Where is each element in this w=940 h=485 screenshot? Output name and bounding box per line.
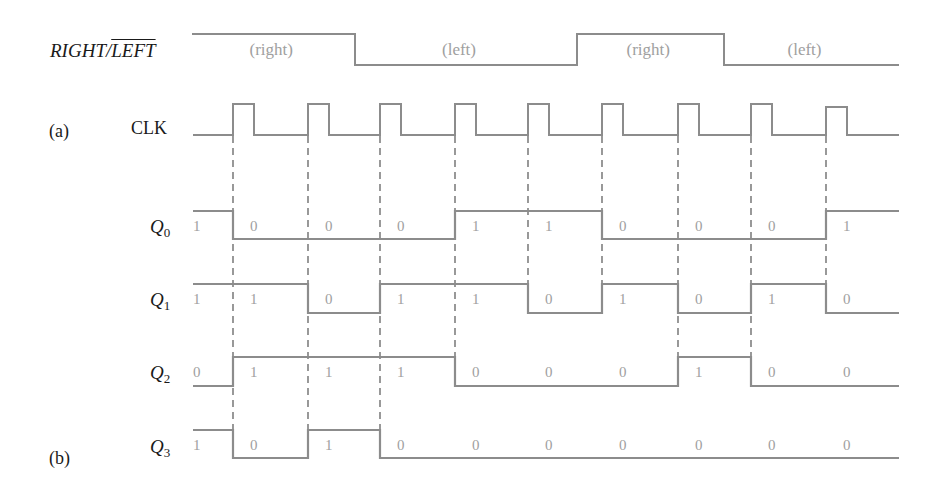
part-a-label: (a)	[49, 121, 69, 142]
q1-bit-value: 1	[193, 291, 201, 308]
q3-bit-value: 0	[397, 437, 405, 454]
right-label: RIGHT/	[50, 40, 111, 61]
q1-bit-value: 0	[325, 291, 333, 308]
q3-bit-value: 0	[619, 437, 627, 454]
q1-bit-value: 0	[843, 291, 851, 308]
q1-label: Q1	[150, 289, 170, 314]
q0-bit-value: 0	[695, 218, 703, 235]
q0-bit-value: 0	[325, 218, 333, 235]
direction-mode-label: (left)	[442, 40, 476, 60]
direction-mode-label: (right)	[627, 40, 670, 60]
q2-bit-value: 1	[397, 364, 405, 381]
q2-bit-value: 0	[472, 364, 480, 381]
q0-bit-value: 1	[472, 218, 480, 235]
q3-bit-value: 0	[250, 437, 258, 454]
q-prefix: Q	[150, 436, 164, 457]
clock-waveform	[193, 104, 899, 135]
q2-bit-value: 0	[619, 364, 627, 381]
q1-bit-value: 1	[768, 291, 776, 308]
timing-diagram	[0, 0, 940, 485]
q2-label: Q2	[150, 362, 170, 387]
q2-bit-value: 0	[768, 364, 776, 381]
waveforms	[192, 34, 899, 458]
q-prefix: Q	[150, 362, 164, 383]
clk-label: CLK	[131, 118, 167, 139]
q-prefix: Q	[150, 289, 164, 310]
q3-bit-value: 0	[545, 437, 553, 454]
q2-bit-value: 0	[545, 364, 553, 381]
q-subscript: 3	[164, 445, 171, 460]
q1-bit-value: 0	[545, 291, 553, 308]
q3-bit-value: 0	[472, 437, 480, 454]
q3-bit-value: 0	[843, 437, 851, 454]
q0-bit-value: 0	[619, 218, 627, 235]
q2-bit-value: 1	[325, 364, 333, 381]
q-subscript: 1	[164, 298, 171, 313]
q1-bit-value: 1	[250, 291, 258, 308]
q1-bit-value: 1	[619, 291, 627, 308]
q-subscript: 2	[164, 371, 171, 386]
q0-label: Q0	[150, 216, 170, 241]
direction-mode-label: (left)	[788, 40, 822, 60]
q2-bit-value: 1	[695, 364, 703, 381]
q1-bit-value: 1	[472, 291, 480, 308]
q1-bit-value: 0	[695, 291, 703, 308]
q0-bit-value: 1	[843, 218, 851, 235]
q3-bit-value: 1	[193, 437, 201, 454]
q0-bit-value: 0	[397, 218, 405, 235]
direction-signal-label: RIGHT/LEFT	[50, 40, 156, 62]
left-bar-label: LEFT	[111, 40, 155, 61]
q3-bit-value: 0	[695, 437, 703, 454]
q-prefix: Q	[150, 216, 164, 237]
q1-bit-value: 1	[397, 291, 405, 308]
q3-label: Q3	[150, 436, 170, 461]
direction-mode-label: (right)	[250, 40, 293, 60]
q-subscript: 0	[164, 225, 171, 240]
q2-bit-value: 0	[843, 364, 851, 381]
q0-bit-value: 1	[193, 218, 201, 235]
q2-bit-value: 1	[250, 364, 258, 381]
q3-bit-value: 1	[325, 437, 333, 454]
q2-bit-value: 0	[193, 364, 201, 381]
part-b-label: (b)	[49, 448, 70, 469]
q0-bit-value: 0	[250, 218, 258, 235]
q0-bit-value: 1	[545, 218, 553, 235]
q0-bit-value: 0	[768, 218, 776, 235]
q3-bit-value: 0	[768, 437, 776, 454]
